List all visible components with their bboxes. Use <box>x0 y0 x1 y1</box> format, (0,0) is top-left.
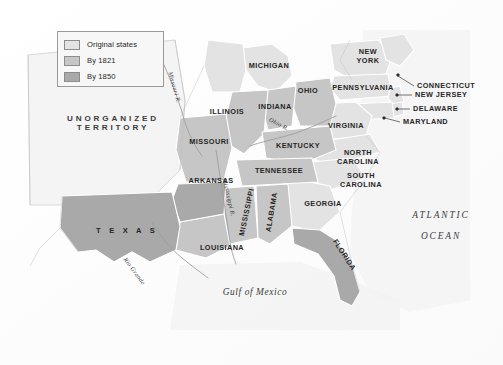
legend-swatch-by-1821 <box>64 56 80 66</box>
legend-label-by-1821: By 1821 <box>87 56 116 65</box>
legend-label-original-states: Original states <box>87 40 137 49</box>
legend-item-by-1821: By 1821 <box>64 53 163 68</box>
legend-swatch-original-states <box>64 40 80 50</box>
legend-item-by-1850: By 1850 <box>64 69 163 84</box>
historical-map-figure: Original states By 1821 By 1850 UNORGANI… <box>0 0 503 365</box>
legend-label-by-1850: By 1850 <box>87 72 116 81</box>
map-legend: Original states By 1821 By 1850 <box>57 31 164 87</box>
legend-swatch-by-1850 <box>64 72 80 82</box>
legend-item-original-states: Original states <box>64 37 163 52</box>
